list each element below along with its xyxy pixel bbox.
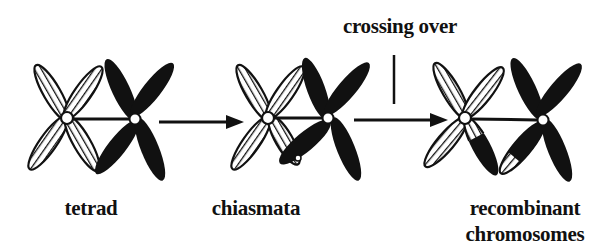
centromere [61, 112, 73, 124]
centromere [130, 114, 141, 125]
centromere [323, 113, 334, 124]
crossing-over-label: crossing over [343, 14, 457, 38]
centromere [262, 112, 274, 124]
tetrad-label: tetrad [64, 196, 117, 220]
chiasma-point [295, 155, 301, 161]
tetrad-group [23, 55, 180, 184]
recombinant-label-line2: chromosomes [466, 222, 585, 246]
connector-line [471, 119, 537, 120]
centromere [538, 115, 549, 126]
centromere [459, 112, 471, 124]
chiasmata-label: chiasmata [212, 196, 300, 220]
arrow-right-icon [354, 113, 448, 127]
chiasmata-group [226, 55, 376, 184]
recombinant-label-line1: recombinant [470, 196, 581, 220]
arrow-right-icon [159, 115, 244, 129]
